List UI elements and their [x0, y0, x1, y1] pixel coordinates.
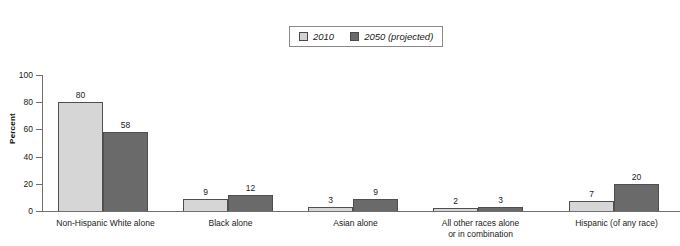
bar-chart: 2010 2050 (projected) Percent 100 80 60 …	[0, 0, 680, 246]
bar-2050[interactable]: 3	[478, 207, 523, 211]
bar-group: 80 58	[58, 75, 148, 211]
legend-label-2050: 2050 (projected)	[364, 32, 433, 42]
legend-swatch-icon-2010	[299, 32, 308, 41]
x-axis-category-label: Hispanic (of any race)	[524, 218, 680, 229]
y-axis-tick	[36, 211, 42, 212]
bar-2050[interactable]: 12	[228, 195, 273, 211]
bar-value-label: 80	[76, 91, 85, 100]
bar-2050[interactable]: 20	[614, 184, 659, 211]
legend-swatch-icon-2050	[350, 32, 359, 41]
bar-value-label: 9	[373, 188, 378, 197]
chart-legend: 2010 2050 (projected)	[289, 26, 443, 47]
y-axis-tick-label: 20	[2, 180, 33, 189]
y-axis-tick-label: 40	[2, 153, 33, 162]
bar-group: 9 12	[183, 75, 273, 211]
y-axis-tick-label: 80	[2, 98, 33, 107]
bar-value-label: 3	[328, 196, 333, 205]
bar-value-label: 3	[498, 196, 503, 205]
y-axis-tick-label: 100	[2, 71, 33, 80]
bar-2010[interactable]: 7	[569, 201, 614, 211]
y-axis-tick-label: 60	[2, 125, 33, 134]
y-axis-tick-label: 0	[2, 207, 33, 216]
bar-value-label: 58	[121, 121, 130, 130]
legend-label-2010: 2010	[313, 32, 334, 42]
bar-2010[interactable]: 9	[183, 199, 228, 211]
bar-2010[interactable]: 3	[308, 207, 353, 211]
x-axis-category-label-line: Hispanic (of any race)	[524, 218, 680, 229]
bar-2010[interactable]: 2	[433, 208, 478, 211]
x-axis-category-label-line: or in combination	[388, 229, 573, 240]
legend-entry-2050[interactable]: 2050 (projected)	[350, 32, 433, 42]
legend-entry-2010[interactable]: 2010	[299, 32, 334, 42]
bar-value-label: 12	[246, 184, 255, 193]
plot-area: 80 58 9 12 3 9 2	[42, 75, 680, 211]
bar-group: 7 20	[569, 75, 659, 211]
bar-2050[interactable]: 9	[353, 199, 398, 211]
bar-value-label: 2	[453, 197, 458, 206]
bar-value-label: 7	[589, 190, 594, 199]
bar-value-label: 9	[203, 188, 208, 197]
bar-group: 3 9	[308, 75, 398, 211]
x-axis-line	[42, 211, 680, 212]
bar-group: 2 3	[433, 75, 523, 211]
bar-value-label: 20	[632, 173, 641, 182]
bar-2050[interactable]: 58	[103, 132, 148, 211]
bar-2010[interactable]: 80	[58, 102, 103, 211]
